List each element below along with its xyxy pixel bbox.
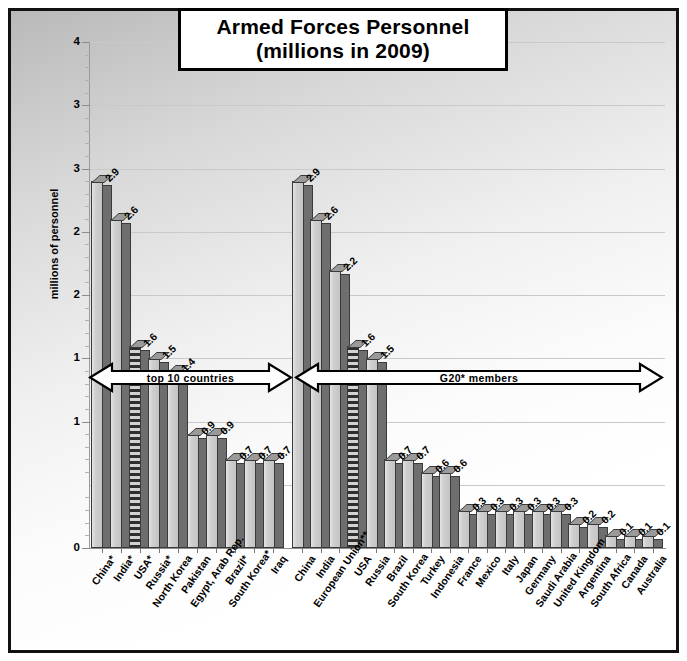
bar xyxy=(167,371,188,548)
bar-front-face xyxy=(458,510,470,548)
annotation-arrow-g20-members: G20* members xyxy=(294,361,664,394)
x-tick-mark xyxy=(524,548,525,553)
x-tick-mark xyxy=(487,548,488,553)
y-tick-mark xyxy=(82,42,90,43)
bar-front-face xyxy=(167,371,179,548)
y-tick-mark-minor xyxy=(85,447,90,448)
y-tick-label: 3 xyxy=(54,98,80,110)
y-tick-mark xyxy=(82,548,90,549)
gridline xyxy=(90,232,665,233)
y-tick-mark-minor xyxy=(85,396,90,397)
y-tick-label-group: 43322110 xyxy=(44,0,80,661)
y-tick-mark-minor xyxy=(85,497,90,498)
x-tick-mark xyxy=(579,548,580,553)
y-tick-mark-minor xyxy=(85,55,90,56)
bar-front-face xyxy=(476,510,488,548)
bar-front-face xyxy=(421,472,433,548)
y-tick-label: 1 xyxy=(54,415,80,427)
x-tick-mark xyxy=(561,548,562,553)
y-tick-mark-minor xyxy=(85,346,90,347)
bar xyxy=(206,434,227,548)
bar-front-face xyxy=(605,535,617,548)
x-tick-mark xyxy=(273,548,274,553)
x-tick-mark xyxy=(121,548,122,553)
y-tick-mark-minor xyxy=(85,206,90,207)
bar xyxy=(187,434,208,548)
y-tick-mark-minor xyxy=(85,510,90,511)
bar-front-face xyxy=(439,472,451,548)
x-tick-mark xyxy=(616,548,617,553)
y-tick-mark-minor xyxy=(85,523,90,524)
annotation-arrow-g20-members-label: G20* members xyxy=(294,361,664,394)
chart-title-line-2: (millions in 2009) xyxy=(183,39,503,63)
y-tick-label: 3 xyxy=(54,162,80,174)
x-tick-mark xyxy=(178,548,179,553)
x-tick-mark xyxy=(321,548,322,553)
bar-front-face xyxy=(568,523,580,548)
chart-title-line-1: Armed Forces Personnel xyxy=(183,15,503,39)
y-tick-mark-minor xyxy=(85,270,90,271)
y-tick-mark-minor xyxy=(85,434,90,435)
bar-front-face xyxy=(187,434,199,548)
y-tick-mark xyxy=(82,295,90,296)
bar-front-face xyxy=(263,459,275,548)
x-tick-mark xyxy=(102,548,103,553)
gridline xyxy=(90,169,665,170)
x-tick-mark xyxy=(413,548,414,553)
y-tick-label: 2 xyxy=(54,288,80,300)
x-tick-mark xyxy=(542,548,543,553)
y-tick-mark-minor xyxy=(85,131,90,132)
y-tick-label: 4 xyxy=(54,35,80,47)
y-tick-mark xyxy=(82,105,90,106)
y-tick-mark-minor xyxy=(85,459,90,460)
x-tick-mark xyxy=(339,548,340,553)
y-tick-mark-minor xyxy=(85,156,90,157)
bar xyxy=(244,459,265,548)
chart-container: Armed Forces Personnel (millions in 2009… xyxy=(0,0,687,661)
x-tick-mark xyxy=(394,548,395,553)
bar xyxy=(263,459,284,548)
bar-front-face xyxy=(329,270,341,548)
y-tick-mark xyxy=(82,358,90,359)
y-tick-mark-minor xyxy=(85,219,90,220)
y-tick-mark-minor xyxy=(85,143,90,144)
bar-side-face xyxy=(275,463,284,548)
y-tick-mark-minor xyxy=(85,535,90,536)
y-tick-mark-minor xyxy=(85,308,90,309)
bar-front-face xyxy=(550,510,562,548)
x-tick-mark xyxy=(302,548,303,553)
x-tick-mark xyxy=(505,548,506,553)
bar-front-face xyxy=(206,434,218,548)
y-tick-mark-minor xyxy=(85,472,90,473)
y-tick-mark xyxy=(82,422,90,423)
y-tick-mark xyxy=(82,169,90,170)
y-tick-mark-minor xyxy=(85,320,90,321)
bar-front-face xyxy=(244,459,256,548)
y-tick-label: 1 xyxy=(54,351,80,363)
x-tick-mark xyxy=(216,548,217,553)
annotation-arrow-top-10-countries: top 10 countries xyxy=(88,361,293,394)
x-tick-mark xyxy=(450,548,451,553)
y-tick-mark-minor xyxy=(85,244,90,245)
bar-front-face xyxy=(495,510,507,548)
bar-front-face xyxy=(402,459,414,548)
x-tick-mark xyxy=(653,548,654,553)
chart-title: Armed Forces Personnel (millions in 2009… xyxy=(178,8,508,71)
x-tick-mark xyxy=(634,548,635,553)
y-tick-mark xyxy=(82,232,90,233)
x-tick-mark xyxy=(197,548,198,553)
x-tick-mark xyxy=(468,548,469,553)
x-tick-mark xyxy=(159,548,160,553)
x-tick-mark xyxy=(140,548,141,553)
y-tick-mark-minor xyxy=(85,257,90,258)
x-tick-mark xyxy=(376,548,377,553)
y-tick-mark-minor xyxy=(85,333,90,334)
y-tick-mark-minor xyxy=(85,409,90,410)
gridline xyxy=(90,105,665,106)
bar xyxy=(642,535,663,548)
bar-side-face xyxy=(654,539,663,548)
y-tick-label: 0 xyxy=(54,541,80,553)
y-tick-mark-minor xyxy=(85,93,90,94)
y-tick-mark-minor xyxy=(85,80,90,81)
x-tick-mark xyxy=(431,548,432,553)
